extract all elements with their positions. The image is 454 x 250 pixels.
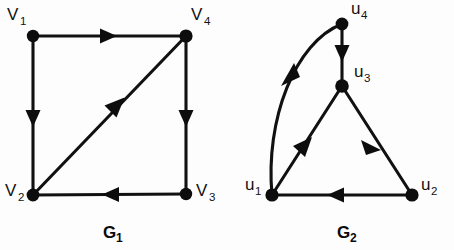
graph-caption-g1: G bbox=[103, 223, 116, 242]
figure-root: V 1 V 4 V 2 V 3 G 1 bbox=[0, 0, 454, 250]
arrowhead-u4-u3 bbox=[335, 45, 350, 62]
arrowhead-v3-v2 bbox=[102, 187, 119, 202]
vertex-v3[interactable] bbox=[180, 188, 192, 200]
graph-caption-g2: G bbox=[337, 223, 350, 242]
vertex-v1[interactable] bbox=[27, 30, 39, 42]
vertex-sublabel-u1: 1 bbox=[255, 185, 261, 197]
arrowhead-v4-v3 bbox=[179, 110, 194, 127]
vertex-v2[interactable] bbox=[27, 189, 40, 202]
graph-g1: V 1 V 4 V 2 V 3 G 1 bbox=[5, 5, 215, 245]
vertex-sublabel-v1: 1 bbox=[20, 15, 26, 27]
vertex-u4[interactable] bbox=[336, 18, 349, 31]
arrowhead-v1-v4 bbox=[100, 29, 117, 44]
graph-g2: u 4 u 3 u 1 u 2 G 2 bbox=[245, 0, 437, 245]
vertex-sublabel-v3: 3 bbox=[209, 191, 215, 203]
vertex-sublabel-u3: 3 bbox=[364, 72, 370, 84]
vertex-label-u4: u bbox=[351, 0, 360, 18]
arrowhead-v1-v2 bbox=[26, 110, 41, 127]
vertex-sublabel-v2: 2 bbox=[18, 191, 24, 203]
edge-u3-u2 bbox=[342, 86, 412, 195]
vertex-label-v1: V bbox=[7, 5, 19, 24]
graph-figure-canvas: V 1 V 4 V 2 V 3 G 1 bbox=[0, 0, 454, 250]
vertex-label-v3: V bbox=[196, 181, 208, 200]
vertex-label-u2: u bbox=[421, 175, 430, 194]
graph-caption-sub-g1: 1 bbox=[116, 231, 123, 245]
vertex-sublabel-v4: 4 bbox=[204, 15, 211, 27]
graph-caption-sub-g2: 2 bbox=[350, 231, 357, 245]
arrowhead-u2-u1 bbox=[327, 188, 344, 203]
arrowhead-v2-v4 bbox=[105, 98, 125, 118]
vertex-sublabel-u4: 4 bbox=[361, 9, 368, 21]
edge-u4-u1 bbox=[271, 24, 342, 195]
vertex-sublabel-u2: 2 bbox=[431, 185, 437, 197]
vertex-v4[interactable] bbox=[179, 29, 192, 42]
arrowhead-u1-u3 bbox=[293, 137, 312, 157]
vertex-u1[interactable] bbox=[265, 188, 278, 201]
vertex-u2[interactable] bbox=[405, 188, 418, 201]
vertex-label-u1: u bbox=[245, 175, 254, 194]
edge-v2-v4 bbox=[33, 36, 186, 195]
vertex-label-v4: V bbox=[191, 5, 203, 24]
vertex-label-u3: u bbox=[354, 62, 363, 81]
vertex-label-v2: V bbox=[5, 181, 17, 200]
vertex-u3[interactable] bbox=[335, 79, 349, 93]
